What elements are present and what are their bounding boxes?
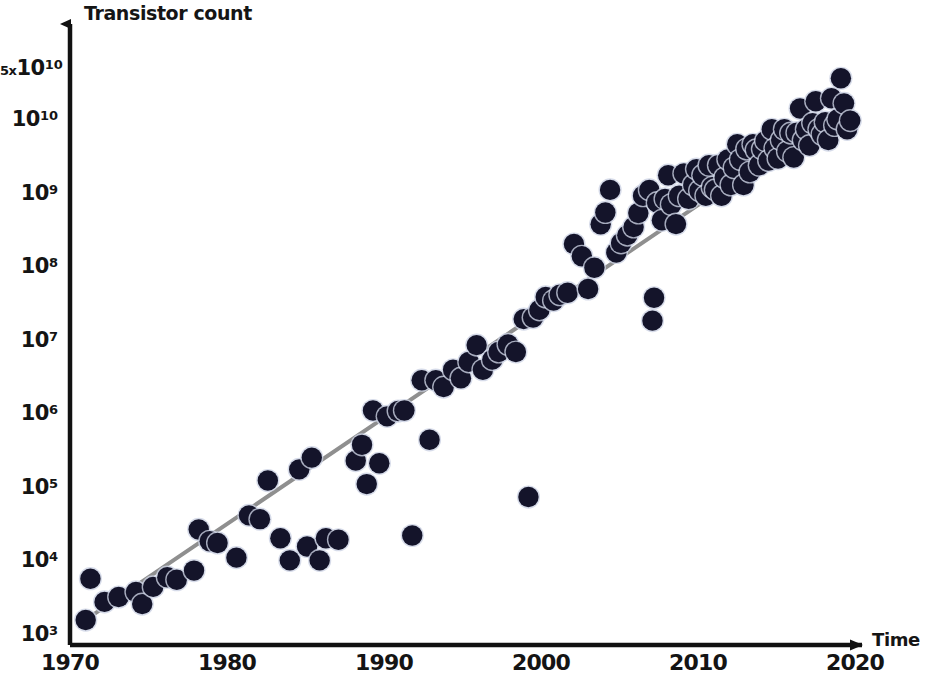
x-axis-tick-label: 2000: [486, 650, 596, 675]
data-point: [327, 528, 350, 551]
data-point: [225, 546, 248, 569]
y-axis-tick-label: 104: [0, 550, 58, 571]
y-axis-title: Transistor count: [84, 2, 252, 24]
x-axis-tick-label: 1980: [172, 650, 282, 675]
y-axis-tick-label: 105: [0, 477, 58, 498]
y-axis-tick-label: 106: [0, 403, 58, 424]
data-point: [598, 178, 621, 201]
data-point: [556, 281, 579, 304]
data-point: [504, 340, 527, 363]
data-point: [393, 399, 416, 422]
data-point: [355, 472, 378, 495]
data-point: [256, 469, 279, 492]
y-axis-tick-label: 103: [0, 624, 58, 645]
y-axis-tick-label: 5x1010: [0, 58, 58, 79]
x-axis-tick-label: 2020: [800, 650, 910, 675]
x-axis-tick-label: 1970: [15, 650, 125, 675]
data-point: [401, 524, 424, 547]
data-point: [368, 452, 391, 475]
data-point: [300, 446, 323, 469]
data-point: [350, 433, 373, 456]
data-point: [594, 201, 617, 224]
data-point: [577, 277, 600, 300]
data-point: [206, 531, 229, 554]
data-point: [248, 508, 271, 531]
data-point: [664, 213, 687, 236]
y-axis-tick-label: 1010: [0, 109, 58, 130]
data-point: [641, 309, 664, 332]
data-point: [418, 428, 441, 451]
y-axis-tick-label: 109: [0, 183, 58, 204]
y-axis-tick-label: 107: [0, 330, 58, 351]
plot-area: [0, 0, 928, 681]
data-point: [74, 608, 97, 631]
x-axis-tick-label: 1990: [329, 650, 439, 675]
data-point: [79, 567, 102, 590]
transistor-count-chart: 5x10101010109108107106105104103 19701980…: [0, 0, 928, 681]
data-point: [269, 527, 292, 550]
data-point: [642, 286, 665, 309]
y-axis-tick-label: 108: [0, 256, 58, 277]
data-point: [583, 256, 606, 279]
data-point: [839, 109, 862, 132]
data-point: [182, 559, 205, 582]
x-axis-title: Time: [872, 629, 920, 650]
data-point: [308, 549, 331, 572]
data-point: [829, 67, 852, 90]
data-point: [517, 485, 540, 508]
x-axis-tick-label: 2010: [643, 650, 753, 675]
